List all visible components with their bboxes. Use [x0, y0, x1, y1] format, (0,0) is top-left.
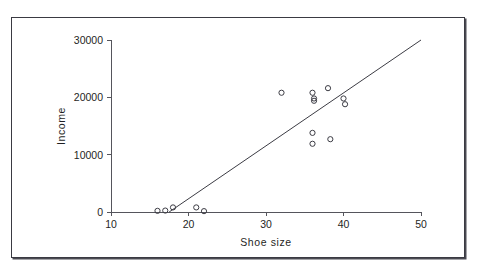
clipped-header-text [0, 0, 478, 5]
x-tick-label: 30 [260, 218, 272, 230]
y-tick-group: 0100002000030000 [74, 34, 111, 218]
y-tick-label: 30000 [74, 34, 103, 46]
y-tick-label: 20000 [74, 91, 103, 103]
data-point [201, 209, 206, 214]
regression-line-group [169, 40, 421, 212]
data-point [325, 86, 330, 91]
data-point [194, 205, 199, 210]
x-tick-label: 10 [105, 218, 117, 230]
chart-canvas: 1020304050 0100002000030000 Shoe size In… [12, 18, 466, 259]
data-point [279, 90, 284, 95]
data-point [310, 141, 315, 146]
data-point [341, 96, 346, 101]
x-axis-title: Shoe size [240, 236, 292, 248]
data-point [310, 130, 315, 135]
data-point [328, 137, 333, 142]
y-tick-label: 0 [97, 206, 103, 218]
figure-frame: 1020304050 0100002000030000 Shoe size In… [11, 17, 465, 258]
data-point [155, 208, 160, 213]
x-tick-label: 40 [338, 218, 350, 230]
x-tick-label: 20 [183, 218, 195, 230]
data-point [342, 102, 347, 107]
x-tick-label: 50 [415, 218, 427, 230]
axes-group [111, 40, 421, 212]
data-point-group [155, 86, 348, 214]
regression-line [169, 40, 421, 212]
data-point [310, 90, 315, 95]
x-tick-group: 1020304050 [105, 212, 427, 230]
scatter-chart: 1020304050 0100002000030000 Shoe size In… [12, 18, 466, 259]
y-tick-label: 10000 [74, 149, 103, 161]
y-axis-title: Income [55, 107, 67, 145]
